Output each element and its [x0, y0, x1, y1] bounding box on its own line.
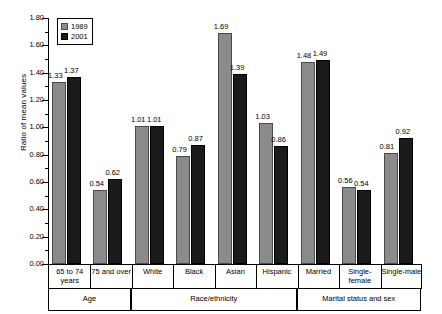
bar-2001	[399, 138, 413, 264]
bar-value-label-1989: 0.81	[380, 143, 395, 151]
category-separator	[90, 265, 91, 289]
bar-group: 0.810.92	[381, 18, 422, 264]
y-tick-label: 0.20	[14, 233, 44, 241]
bar-1989	[384, 153, 398, 264]
bar-1989	[342, 187, 356, 264]
bar-value-label-1989: 1.01	[131, 116, 146, 124]
category-label: White	[132, 265, 173, 289]
bar-2001	[191, 145, 205, 264]
bar-group: 1.691.39	[215, 18, 256, 264]
bar-group: 1.331.37	[49, 18, 90, 264]
bar-value-label-2001: 0.92	[396, 128, 411, 136]
category-separator	[298, 265, 299, 289]
category-label: Single-male	[381, 265, 422, 289]
group-label: Marital status and sex	[297, 289, 421, 311]
legend-item-1989: 1989	[61, 22, 88, 31]
bar-chart: Ratio of mean values 0.000.200.400.600.8…	[0, 0, 442, 314]
legend-swatch-1989	[61, 23, 68, 30]
bar-value-label-1989: 1.03	[255, 113, 270, 121]
y-tick-label: 1.80	[14, 14, 44, 22]
category-label: Single-female	[339, 265, 380, 289]
bar-2001	[274, 146, 288, 264]
bar-value-label-1989: 0.56	[338, 177, 353, 185]
bar-value-label-1989: 1.33	[48, 72, 63, 80]
y-tick-label: 0.00	[14, 260, 44, 268]
bar-value-label-2001: 1.39	[230, 64, 245, 72]
legend: 1989 2001	[57, 18, 93, 45]
category-label: Hispanic	[256, 265, 297, 289]
y-tick-label: 0.40	[14, 205, 44, 213]
bar-1989	[93, 190, 107, 264]
group-axis: AgeRace/ethnicityMarital status and sex	[48, 289, 422, 311]
bar-group: 1.481.49	[298, 18, 339, 264]
category-axis: 65 to 74years75 and overWhiteBlackAsianH…	[48, 265, 422, 289]
category-separator	[173, 265, 174, 289]
bar-group: 0.790.87	[173, 18, 214, 264]
bar-2001	[357, 190, 371, 264]
y-tick-label: 1.60	[14, 41, 44, 49]
bar-value-label-2001: 0.54	[354, 180, 369, 188]
bar-value-label-1989: 1.48	[297, 52, 312, 60]
y-tick-label: 1.20	[14, 96, 44, 104]
bar-group: 0.560.54	[339, 18, 380, 264]
category-separator	[132, 265, 133, 289]
category-separator	[339, 265, 340, 289]
y-tick-label: 1.00	[14, 123, 44, 131]
category-label: Black	[173, 265, 214, 289]
y-tick-label: 0.80	[14, 151, 44, 159]
bar-2001	[108, 179, 122, 264]
group-label: Age	[48, 289, 131, 311]
bar-value-label-2001: 1.37	[64, 67, 79, 75]
y-tick-label: 1.40	[14, 69, 44, 77]
bar-2001	[233, 74, 247, 264]
bar-value-label-1989: 1.69	[214, 23, 229, 31]
bar-value-label-1989: 0.79	[172, 146, 187, 154]
bar-value-label-2001: 0.86	[271, 136, 286, 144]
group-label: Race/ethnicity	[131, 289, 297, 311]
bar-value-label-2001: 0.62	[105, 169, 120, 177]
category-label: 75 and over	[90, 265, 131, 289]
legend-label-2001: 2001	[71, 33, 88, 41]
bar-1989	[135, 126, 149, 264]
bar-value-label-2001: 1.01	[147, 116, 162, 124]
category-label: 65 to 74years	[49, 265, 90, 289]
bar-2001	[150, 126, 164, 264]
category-separator	[215, 265, 216, 289]
y-tick-label: 0.60	[14, 178, 44, 186]
bar-group: 1.030.86	[256, 18, 297, 264]
category-label: Asian	[215, 265, 256, 289]
bar-group: 1.011.01	[132, 18, 173, 264]
bar-value-label-1989: 0.54	[89, 180, 104, 188]
bar-2001	[67, 77, 81, 264]
bar-value-label-2001: 1.49	[313, 50, 328, 58]
category-separator	[256, 265, 257, 289]
category-label: Married	[298, 265, 339, 289]
plot-area: 1.331.370.540.621.011.010.790.871.691.39…	[49, 18, 422, 264]
bar-group: 0.540.62	[90, 18, 131, 264]
bar-2001	[316, 60, 330, 264]
bar-1989	[301, 62, 315, 264]
legend-swatch-2001	[61, 33, 68, 40]
bar-1989	[176, 156, 190, 264]
bar-1989	[52, 82, 66, 264]
bar-value-label-2001: 0.87	[188, 135, 203, 143]
legend-item-2001: 2001	[61, 32, 88, 41]
category-separator	[381, 265, 382, 289]
legend-label-1989: 1989	[71, 23, 88, 31]
